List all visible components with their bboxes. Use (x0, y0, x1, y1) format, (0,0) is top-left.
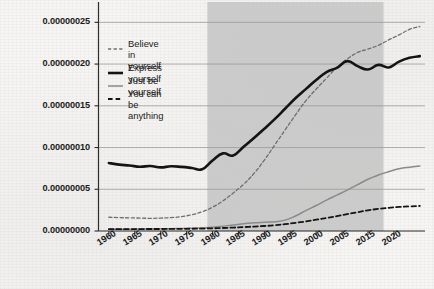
chart-page: 0.000000250.000000200.000000150.00000010… (0, 0, 434, 289)
dashed-swatch (108, 90, 123, 100)
y-tick-label: 0.00000020 (4, 58, 90, 68)
y-tick-label: 0.00000010 (4, 142, 90, 152)
y-tick-label: 0.00000015 (4, 100, 90, 110)
y-tick-label: 0.00000005 (4, 183, 90, 193)
y-tick-label: 0.00000000 (4, 225, 90, 235)
thin-line-swatch (108, 77, 123, 87)
highlight-band (207, 2, 383, 231)
chart-highlight-band-group (207, 2, 383, 231)
y-tick-label: 0.00000025 (4, 16, 90, 26)
thick-line-swatch (108, 64, 123, 74)
legend-label: You can be anything (128, 88, 163, 122)
dotted-swatch (108, 40, 123, 50)
legend-item[interactable]: You can be anything (108, 88, 163, 122)
